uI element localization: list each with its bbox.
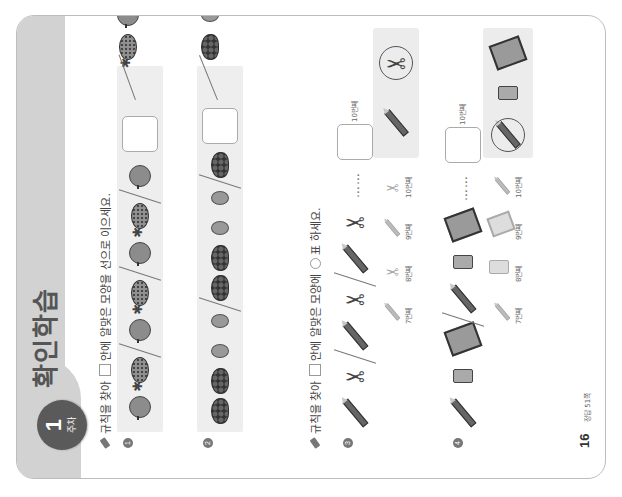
problem-3-choice-pencil[interactable] bbox=[381, 108, 411, 138]
problem-3-choices: ✂ bbox=[373, 28, 419, 158]
pencil-icon bbox=[385, 303, 401, 320]
seq-grapes bbox=[200, 243, 240, 273]
seq-pineapple bbox=[120, 275, 160, 312]
pineapple-icon bbox=[131, 358, 149, 384]
ellipsis: …… bbox=[348, 172, 362, 198]
hint-label: 10번째 bbox=[513, 177, 523, 198]
blank-box-icon bbox=[99, 365, 111, 377]
problem-4-choice-eraser[interactable] bbox=[493, 78, 523, 108]
problem-3-hints: 7번째 ✂8번째 9번째 ✂10번째 bbox=[379, 164, 409, 328]
eraser-icon bbox=[489, 260, 509, 274]
problem-3-choice-scissors[interactable]: ✂ bbox=[381, 48, 411, 78]
problem-1-choice-pineapple[interactable] bbox=[113, 32, 143, 62]
instruction-text: 표 하세요. bbox=[307, 208, 323, 255]
pencil-bullet-icon bbox=[310, 437, 321, 449]
instruction-text: 안에 알맞은 모양에 bbox=[307, 274, 323, 361]
problem-1-answer-box[interactable] bbox=[122, 116, 158, 152]
page-title: 확인학습 bbox=[25, 288, 62, 388]
seq-pencil bbox=[443, 395, 483, 432]
hint: 9번째 bbox=[489, 206, 519, 244]
problem-1-number: 1 bbox=[123, 438, 133, 448]
grapes-icon bbox=[201, 34, 219, 60]
notebook-icon bbox=[444, 208, 483, 243]
problem-4-sequence: …… 10번째 bbox=[441, 127, 485, 432]
grapes-icon bbox=[211, 275, 229, 301]
apple-icon bbox=[129, 243, 151, 265]
problem-3-sequence: ✂ ✂ ✂ …… 10번째 bbox=[333, 124, 377, 432]
pineapple-icon bbox=[119, 34, 137, 60]
pencil-icon bbox=[450, 285, 476, 314]
grapes-icon bbox=[211, 152, 229, 178]
apple-icon bbox=[129, 320, 151, 342]
answer-circle bbox=[379, 46, 413, 80]
hint-label: 7번째 bbox=[513, 308, 523, 324]
scissors-icon: ✂ bbox=[340, 287, 370, 313]
problem-4-hints: 7번째 8번째 9번째 10번째 bbox=[489, 164, 519, 328]
seq-apple bbox=[120, 389, 160, 426]
hint: 9번째 bbox=[379, 206, 409, 244]
hint-label: 10번째 bbox=[403, 177, 413, 198]
problem-4-answer-box[interactable] bbox=[445, 127, 481, 163]
page-number: 16 bbox=[577, 434, 592, 448]
instruction-text: 안에 알맞은 모양을 선으로 이으세요. bbox=[97, 193, 113, 360]
hint: 10번째 bbox=[489, 164, 519, 202]
hint-label: 9번째 bbox=[513, 224, 523, 240]
blank-box-icon bbox=[309, 365, 321, 377]
problem-4-blank: 10번째 bbox=[445, 127, 481, 169]
section1-instruction: 규칙을 찾아 안에 알맞은 모양을 선으로 이으세요. bbox=[97, 193, 113, 448]
hint: 7번째 bbox=[379, 290, 409, 328]
pencil-icon bbox=[342, 399, 368, 428]
apple-icon bbox=[129, 397, 151, 419]
seq-grapes bbox=[200, 273, 240, 303]
answer-reference: 정답 51쪽 bbox=[582, 393, 592, 422]
hint: ✂10번째 bbox=[379, 164, 409, 202]
seq-pineapple bbox=[120, 352, 160, 389]
notebook-icon bbox=[486, 210, 515, 237]
seq-kiwi bbox=[200, 183, 240, 213]
seq-scissors: ✂ bbox=[335, 281, 375, 318]
kiwi-icon bbox=[211, 314, 229, 328]
week-label: 주차 bbox=[67, 400, 77, 450]
section2-instruction: 규칙을 찾아 안에 알맞은 모양에 표 하세요. bbox=[307, 208, 323, 449]
seq-kiwi bbox=[200, 306, 240, 336]
problem-2-answer-box[interactable] bbox=[202, 108, 238, 144]
notebook-icon bbox=[489, 35, 528, 70]
kiwi-icon bbox=[201, 15, 219, 22]
problem-4-choice-notebook[interactable] bbox=[493, 38, 523, 68]
seq-eraser bbox=[443, 358, 483, 395]
seq-grapes bbox=[200, 396, 240, 426]
ellipsis: …… bbox=[456, 175, 470, 201]
pencil-icon bbox=[384, 109, 409, 136]
hint: 8번째 bbox=[489, 248, 519, 286]
problem-4-choice-pencil[interactable] bbox=[493, 120, 523, 150]
kiwi-icon bbox=[211, 344, 229, 358]
circle-mark-icon bbox=[310, 259, 321, 270]
instruction-text: 규칙을 찾아 bbox=[97, 381, 113, 435]
kiwi-icon bbox=[211, 221, 229, 235]
problem-2-number: 2 bbox=[203, 438, 213, 448]
scissors-icon: ✂ bbox=[340, 210, 370, 236]
problem-3-blank: 10번째 bbox=[337, 124, 373, 166]
problem-1-choice-apple[interactable] bbox=[113, 15, 143, 30]
notebook-icon bbox=[444, 322, 483, 357]
seq-pineapple bbox=[120, 198, 160, 235]
seq-pencil bbox=[443, 281, 483, 318]
week-number: 1 bbox=[41, 400, 67, 450]
pencil-icon bbox=[342, 245, 368, 274]
eraser-icon bbox=[453, 256, 473, 270]
seq-scissors: ✂ bbox=[335, 358, 375, 395]
problem-3-answer-box[interactable] bbox=[337, 124, 373, 160]
seq-apple bbox=[120, 158, 160, 195]
pencil-icon bbox=[385, 219, 401, 236]
page-frame: 1 주차 확인학습 규칙을 찾아 안에 알맞은 모양을 선으로 이으세요. 1 bbox=[16, 15, 606, 479]
blank-position-label: 10번째 bbox=[349, 101, 359, 122]
pencil-bullet-icon bbox=[100, 437, 111, 449]
seq-apple bbox=[120, 235, 160, 272]
seq-grapes bbox=[200, 150, 240, 180]
problem-2-choice-kiwi[interactable] bbox=[195, 15, 225, 30]
seq-apple bbox=[120, 312, 160, 349]
answer-circle bbox=[491, 118, 525, 152]
pineapple-icon bbox=[131, 281, 149, 307]
blank-position-label: 10번째 bbox=[457, 104, 467, 125]
pencil-icon bbox=[342, 322, 368, 351]
